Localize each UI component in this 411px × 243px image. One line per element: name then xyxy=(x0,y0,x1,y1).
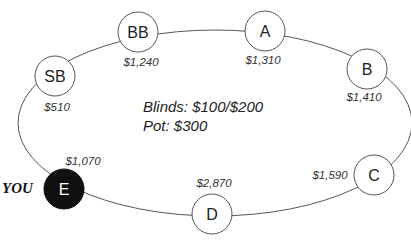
seat-label: B xyxy=(362,61,373,78)
seat-b[interactable]: B $1,410 xyxy=(345,49,387,103)
seat-bb[interactable]: BB $1,240 xyxy=(118,12,159,68)
seat-a[interactable]: A $1,310 xyxy=(244,11,285,66)
stack-amount: $1,240 xyxy=(122,56,159,68)
seat-e-hero[interactable]: E $1,070 YOU xyxy=(2,155,101,209)
blinds-text: Blinds: $100/$200 xyxy=(143,98,264,115)
hero-label: YOU xyxy=(2,180,34,196)
stack-amount: $1,070 xyxy=(64,155,101,167)
seat-label: C xyxy=(368,167,380,184)
pot-text: Pot: $300 xyxy=(143,117,208,134)
stack-amount: $1,310 xyxy=(244,54,281,66)
seat-label: SB xyxy=(44,68,65,85)
stack-amount: $510 xyxy=(43,101,70,113)
stack-amount: $1,410 xyxy=(345,91,382,103)
seat-label: BB xyxy=(127,24,148,41)
seat-label: A xyxy=(260,23,271,40)
seat-label: E xyxy=(59,181,70,198)
poker-table-diagram: BB $1,240 A $1,310 SB $510 B $1,410 C $1… xyxy=(0,0,411,243)
stack-amount: $1,590 xyxy=(311,169,348,181)
seat-label: D xyxy=(206,206,218,223)
table-canvas: BB $1,240 A $1,310 SB $510 B $1,410 C $1… xyxy=(0,0,411,243)
stack-amount: $2,870 xyxy=(195,177,232,189)
seat-sb[interactable]: SB $510 xyxy=(35,56,75,113)
seat-d[interactable]: D $2,870 xyxy=(192,177,232,234)
